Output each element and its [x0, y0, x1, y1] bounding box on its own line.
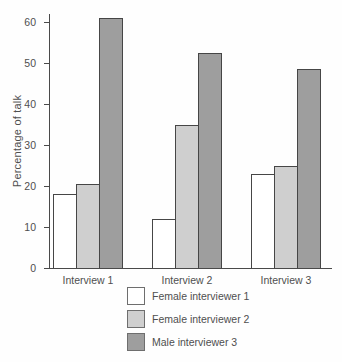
legend-swatch: [127, 310, 145, 328]
legend-label: Female interviewer 2: [152, 313, 249, 325]
bar-female-interviewer-1-interview-2: [152, 219, 176, 268]
y-tick-label: 0: [9, 263, 36, 273]
legend: Female interviewer 1Female interviewer 2…: [127, 287, 249, 356]
x-category-label: Interview 1: [43, 274, 133, 286]
bar-female-interviewer-1-interview-1: [53, 194, 77, 268]
legend-swatch: [127, 287, 145, 305]
bar-female-interviewer-1-interview-3: [251, 174, 275, 268]
y-tick-label: 30: [9, 140, 36, 150]
bar-chart-figure: Percentage of talk 0102030405060Intervie…: [0, 0, 342, 362]
plot-area: 0102030405060Interview 1Interview 2Inter…: [49, 14, 332, 269]
y-tick-mark: [44, 186, 49, 187]
legend-row: Female interviewer 1: [127, 287, 249, 304]
bar-male-interviewer-3-interview-1: [99, 18, 123, 268]
y-tick-label: 60: [9, 17, 36, 27]
legend-row: Female interviewer 2: [127, 310, 249, 327]
legend-label: Male interviewer 3: [152, 336, 237, 348]
legend-label: Female interviewer 1: [152, 290, 249, 302]
y-tick-mark: [44, 63, 49, 64]
y-tick-mark: [44, 268, 49, 269]
x-category-label: Interview 2: [142, 274, 232, 286]
y-tick-label: 40: [9, 99, 36, 109]
legend-row: Male interviewer 3: [127, 333, 249, 350]
bar-female-interviewer-2-interview-3: [274, 166, 298, 268]
bar-female-interviewer-2-interview-1: [76, 184, 100, 268]
y-tick-label: 10: [9, 222, 36, 232]
bar-female-interviewer-2-interview-2: [175, 125, 199, 268]
bar-male-interviewer-3-interview-2: [198, 53, 222, 268]
x-category-label: Interview 3: [241, 274, 331, 286]
legend-swatch: [127, 333, 145, 351]
y-tick-label: 20: [9, 181, 36, 191]
y-tick-mark: [44, 104, 49, 105]
y-tick-label: 50: [9, 58, 36, 68]
bar-male-interviewer-3-interview-3: [297, 69, 321, 268]
y-tick-mark: [44, 145, 49, 146]
y-tick-mark: [44, 22, 49, 23]
y-tick-mark: [44, 227, 49, 228]
